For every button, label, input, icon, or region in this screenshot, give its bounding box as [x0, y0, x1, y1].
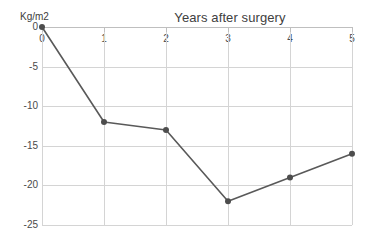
series-markers — [39, 24, 355, 204]
y-axis-tick-label: -15 — [4, 141, 38, 151]
data-point-marker — [101, 119, 107, 125]
plot-area — [42, 27, 352, 225]
data-point-marker — [39, 24, 45, 30]
data-point-marker — [349, 151, 355, 157]
data-point-marker — [163, 127, 169, 133]
x-axis-tick-mark — [352, 27, 353, 32]
gridline-vertical — [352, 27, 353, 225]
y-axis-tick-label: -5 — [4, 62, 38, 72]
data-point-marker — [225, 198, 231, 204]
series-line — [42, 27, 352, 201]
y-axis-tick-label: -20 — [4, 180, 38, 190]
y-axis-tick-label: 0 — [4, 22, 38, 32]
gridline-horizontal — [42, 225, 352, 226]
data-point-marker — [287, 174, 293, 180]
line-chart: Years after surgery Kg/m2 0-5-10-15-20-2… — [0, 0, 372, 241]
data-series-bmi-change — [42, 27, 352, 225]
y-axis-tick-label: -25 — [4, 220, 38, 230]
y-axis-tick-label: -10 — [4, 101, 38, 111]
